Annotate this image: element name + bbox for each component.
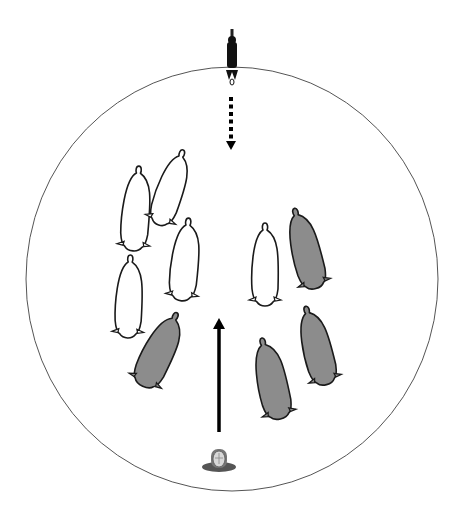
sheep-white xyxy=(143,145,198,230)
dotted-arrow-down xyxy=(226,97,236,150)
handler-top-icon xyxy=(226,29,238,85)
sheep-grey xyxy=(289,302,343,389)
movement-arrows xyxy=(213,97,236,432)
sheep-white xyxy=(249,223,281,306)
sheep-grey xyxy=(245,334,298,423)
solid-arrow-up xyxy=(213,318,225,432)
handler-bottom-icon xyxy=(202,449,236,472)
sheep-flock xyxy=(112,145,343,423)
herding-diagram xyxy=(0,0,459,519)
sheep-white xyxy=(112,254,147,338)
sheep-grey xyxy=(278,204,332,293)
sheep-white xyxy=(165,217,205,303)
sheep-white xyxy=(117,165,156,252)
